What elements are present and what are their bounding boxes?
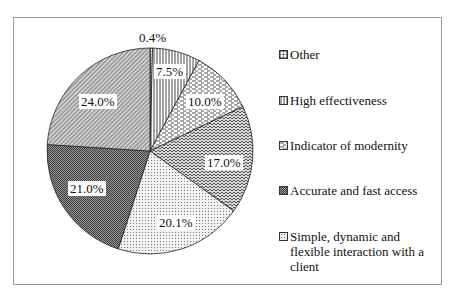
legend-item-high-effectiveness: High effectiveness	[279, 93, 440, 108]
slice-label-segment-a: 21.0%	[68, 181, 106, 196]
legend-item-accurate-fast-access: Accurate and fast access	[279, 183, 440, 198]
legend-swatch-horizontal-icon	[279, 141, 288, 150]
legend-item-indicator-of-modernity: Indicator of modernity	[279, 138, 440, 153]
legend-swatch-dark-icon	[279, 186, 288, 195]
slice-label-simple-dynamic: 20.1%	[157, 215, 195, 230]
slice-label-high-effectiveness: 7.5%	[154, 64, 185, 79]
slice-label-indicator-of-modernity: 10.0%	[186, 94, 224, 109]
legend-swatch-vertical-icon	[279, 96, 288, 105]
slice-label-other: 0.4%	[137, 30, 168, 45]
slice-label-accurate-fast-access: 17.0%	[205, 155, 243, 170]
legend-item-simple-dynamic-interaction: Simple, dynamic and flexible interaction…	[279, 229, 440, 274]
legend-swatch-dots-icon	[279, 232, 288, 241]
legend-item-other: Other	[279, 47, 440, 62]
legend-swatch-grid-icon	[279, 50, 288, 59]
slice-label-segment-b: 24.0%	[79, 94, 117, 109]
